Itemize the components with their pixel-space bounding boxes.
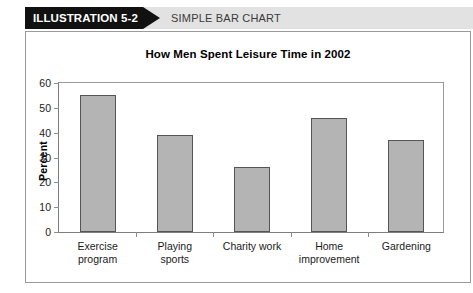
y-tick-mark	[54, 133, 59, 134]
y-tick-label: 0	[45, 224, 51, 240]
illustration-figure: ILLUSTRATION 5-2 SIMPLE BAR CHART How Me…	[0, 0, 473, 293]
y-tick-label: 30	[39, 150, 51, 166]
y-tick-mark	[54, 182, 59, 183]
bar	[157, 135, 193, 232]
illustration-badge-label: ILLUSTRATION 5-2	[33, 9, 145, 27]
chart-title: How Men Spent Leisure Time in 2002	[26, 48, 470, 60]
plot-area: Percent 0102030405060 Exercise programPl…	[58, 82, 444, 233]
badge-arrow-icon	[143, 7, 160, 29]
y-tick-label: 10	[39, 199, 51, 215]
x-category-label: Gardening	[368, 240, 445, 253]
y-tick-mark	[54, 83, 59, 84]
bar	[388, 140, 424, 232]
x-tick-mark	[136, 232, 137, 237]
x-category-label: Home improvement	[291, 240, 368, 266]
chart-frame: How Men Spent Leisure Time in 2002 Perce…	[25, 31, 471, 283]
illustration-caption: SIMPLE BAR CHART	[171, 10, 281, 26]
y-tick-mark	[54, 207, 59, 208]
bar	[234, 167, 270, 232]
x-category-label: Charity work	[213, 240, 290, 253]
x-category-label: Playing sports	[136, 240, 213, 266]
x-category-label: Exercise program	[59, 240, 136, 266]
bar	[80, 95, 116, 232]
y-tick-label: 50	[39, 100, 51, 116]
y-tick-mark	[54, 232, 59, 233]
x-tick-mark	[291, 232, 292, 237]
y-tick-label: 20	[39, 174, 51, 190]
bar	[311, 118, 347, 232]
y-tick-label: 60	[39, 75, 51, 91]
x-tick-mark	[368, 232, 369, 237]
y-tick-label: 40	[39, 125, 51, 141]
y-tick-mark	[54, 158, 59, 159]
x-tick-mark	[213, 232, 214, 237]
y-tick-mark	[54, 108, 59, 109]
